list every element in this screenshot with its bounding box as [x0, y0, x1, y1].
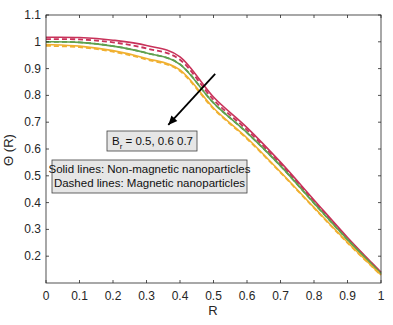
legend-line: Solid lines: Non-magnetic nanoparticles: [49, 163, 251, 175]
y-tick-label: 0.5: [24, 169, 41, 183]
y-tick-label: 0.3: [24, 222, 41, 236]
x-tick-label: 0.8: [306, 289, 323, 303]
x-tick-label: 0.2: [105, 289, 122, 303]
x-tick-label: 1: [378, 289, 385, 303]
plot-background: [46, 15, 381, 283]
line-chart: 00.10.20.30.40.50.60.70.80.910.20.30.40.…: [0, 0, 393, 325]
plot-area: [46, 15, 381, 283]
x-tick-label: 0.5: [205, 289, 222, 303]
x-tick-label: 0.4: [172, 289, 189, 303]
y-tick-label: 0.6: [24, 142, 41, 156]
y-tick-label: 0.9: [24, 62, 41, 76]
x-tick-label: 0.1: [71, 289, 88, 303]
y-axis-label: Θ (R): [1, 134, 16, 166]
y-tick-label: 0.2: [24, 249, 41, 263]
x-tick-label: 0: [43, 289, 50, 303]
y-tick-label: 0.4: [24, 196, 41, 210]
x-tick-label: 0.3: [138, 289, 155, 303]
y-tick-label: 0.8: [24, 88, 41, 102]
y-tick-label: 1.1: [24, 8, 41, 22]
legend-line: Dashed lines: Magnetic nanoparticles: [54, 177, 245, 189]
x-tick-label: 0.7: [272, 289, 289, 303]
y-tick-label: 1: [34, 35, 41, 49]
x-tick-label: 0.6: [239, 289, 256, 303]
x-tick-label: 0.9: [339, 289, 356, 303]
y-tick-label: 0.7: [24, 115, 41, 129]
x-axis-label: R: [208, 303, 217, 318]
